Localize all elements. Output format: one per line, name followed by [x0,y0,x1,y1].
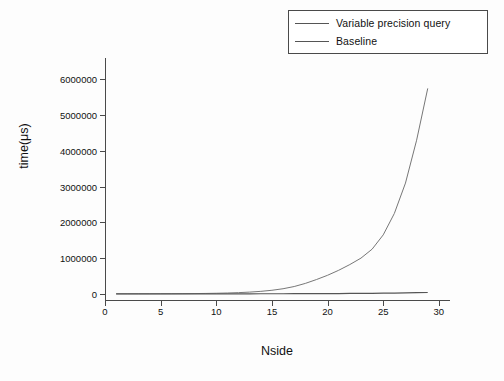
legend-entry-baseline: Baseline [295,32,481,50]
chart-curves [105,58,450,301]
y-tick-label: 1000000 [60,253,97,264]
x-tick-label: 15 [267,306,278,317]
chart-legend: Variable precision query Baseline [288,10,488,54]
x-axis-title: Nside [261,344,293,358]
y-axis-title: time(μs) [17,123,31,168]
y-tick-label: 4000000 [60,145,97,156]
y-tick-label: 0 [92,288,97,299]
x-tick-label: 0 [102,306,107,317]
y-tick-label: 3000000 [60,181,97,192]
x-tick-label: 30 [434,306,445,317]
legend-entry-variable-precision-query: Variable precision query [295,14,481,32]
series-line-baseline [116,88,428,293]
x-tick-label: 20 [322,306,333,317]
series-line-variable-precision-query [116,293,428,294]
legend-label-variable-precision-query: Variable precision query [336,17,450,29]
x-tick-label: 5 [158,306,163,317]
y-tick-label: 6000000 [60,74,97,85]
legend-label-baseline: Baseline [336,35,377,47]
y-tick-label: 2000000 [60,217,97,228]
legend-swatch-variable-precision-query [295,23,329,24]
plot-area: 0100000020000003000000400000050000006000… [105,58,450,301]
y-tick-label: 5000000 [60,110,97,121]
x-tick-label: 10 [211,306,222,317]
x-tick-label: 25 [378,306,389,317]
chart-figure: Variable precision query Baseline time(μ… [0,0,504,381]
legend-swatch-baseline [295,41,329,42]
